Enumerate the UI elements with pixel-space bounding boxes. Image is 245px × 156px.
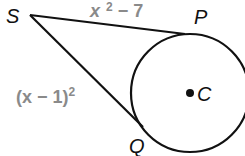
expr-sp-rest: − 7 bbox=[113, 1, 144, 21]
segment-sp bbox=[30, 15, 185, 34]
expr-sp-base: x bbox=[89, 1, 101, 21]
center-point bbox=[186, 89, 194, 97]
expression-sp: x2 − 7 bbox=[89, 0, 143, 21]
label-q: Q bbox=[129, 135, 145, 156]
label-s: S bbox=[6, 5, 20, 27]
segment-sq bbox=[30, 15, 143, 127]
expr-sq-base: (x − 1) bbox=[16, 87, 69, 107]
expression-sq: (x − 1)2 bbox=[16, 85, 76, 107]
label-c: C bbox=[197, 83, 212, 105]
label-p: P bbox=[194, 6, 208, 28]
tangent-diagram: S P Q C x2 − 7 (x − 1)2 bbox=[0, 0, 245, 156]
expr-sq-sup: 2 bbox=[69, 85, 76, 99]
